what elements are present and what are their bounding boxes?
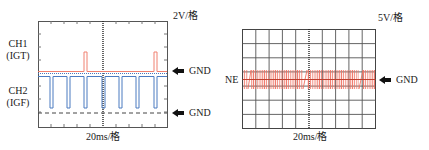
arrow-left-icon bbox=[172, 109, 178, 117]
ch2-name: CH2 bbox=[0, 85, 36, 97]
ne-gnd-marker: GND bbox=[379, 74, 418, 85]
left-scope: 2V/格 CH1 (IGT) CH2 (IGF) GND GND 20ms/格 bbox=[0, 0, 215, 150]
ne-gnd-label: GND bbox=[396, 74, 418, 85]
right-time-div-label: 20ms/格 bbox=[293, 131, 327, 142]
ch1-gnd-label: GND bbox=[189, 65, 211, 76]
arrow-left-icon bbox=[172, 67, 178, 75]
left-volt-div-label: 2V/格 bbox=[173, 10, 198, 21]
ch2-label: CH2 (IGF) bbox=[0, 85, 36, 109]
ch2-gnd-label: GND bbox=[189, 107, 211, 118]
ch1-signal: (IGT) bbox=[0, 50, 36, 62]
right-scope: 5V/格 NE GND 20ms/格 bbox=[215, 0, 429, 150]
ch1-label: CH1 (IGT) bbox=[0, 38, 36, 62]
right-volt-div-label: 5V/格 bbox=[378, 12, 403, 23]
ch2-signal: (IGF) bbox=[0, 97, 36, 109]
ch2-gnd-marker: GND bbox=[172, 107, 211, 118]
ch1-gnd-marker: GND bbox=[172, 65, 211, 76]
arrow-left-icon bbox=[379, 76, 385, 84]
ne-label: NE bbox=[225, 74, 238, 85]
left-time-div-label: 20ms/格 bbox=[86, 131, 120, 142]
ch1-name: CH1 bbox=[0, 38, 36, 50]
